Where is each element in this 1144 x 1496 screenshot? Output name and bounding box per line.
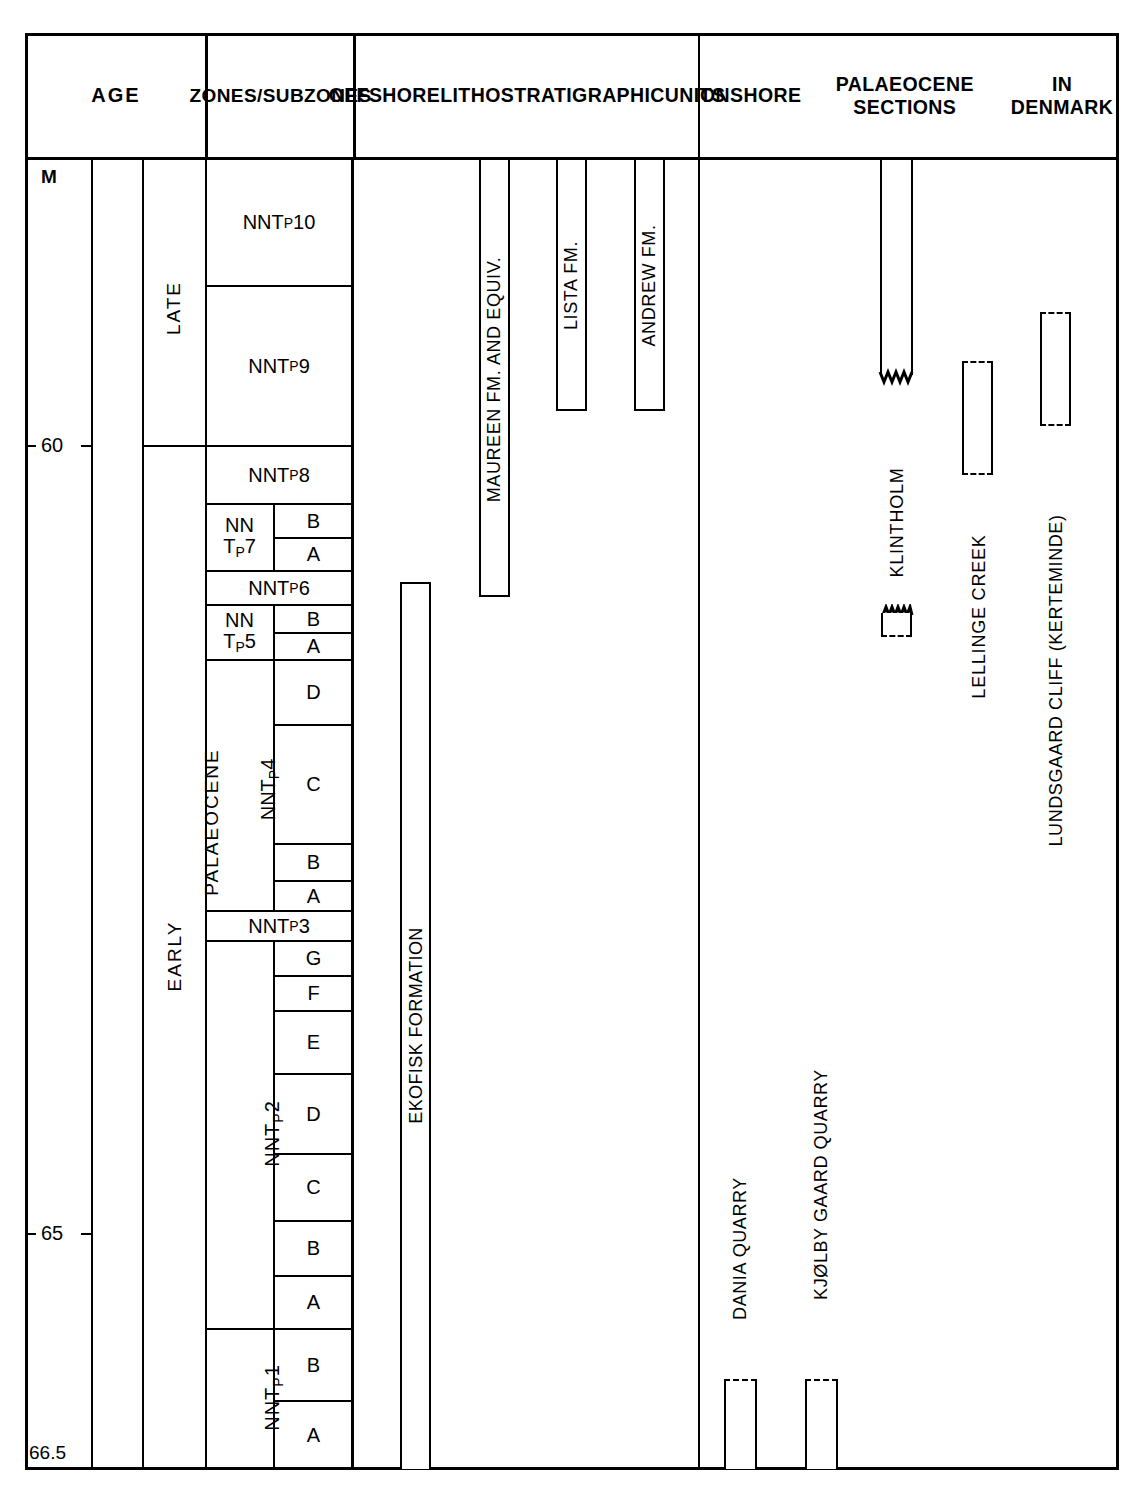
- zone-p9-sub: P: [289, 358, 298, 374]
- subzone-p4-B: B: [275, 845, 352, 880]
- axis-label-60: 60: [41, 434, 63, 457]
- zone-p7-t: T: [223, 535, 235, 557]
- subzone-p5-A: A: [275, 634, 352, 659]
- stratigraphic-chart: AGE ZONES/SUBZONES OFFSHORELITHOSTRATIGR…: [0, 0, 1144, 1496]
- zone-p10-text: NNT: [243, 211, 284, 234]
- zone-p9-num: 9: [299, 355, 310, 378]
- label-ekofisk-formation: EKOFISK FORMATION: [401, 800, 432, 1252]
- subzone-p2-C: C: [275, 1155, 352, 1220]
- header-onshore: ONSHOREPALAEOCENE SECTIONSIN DENMARK: [700, 34, 1116, 157]
- label-maureen-fm: MAUREEN FM. AND EQUIV.: [479, 180, 510, 580]
- zone-label-p5: NN TP5: [206, 606, 273, 659]
- header-age: AGE: [28, 34, 204, 157]
- subzone-p2-A: A: [275, 1277, 352, 1328]
- bar-lellinge-creek: [962, 361, 993, 475]
- zone-p6-sub: P: [289, 580, 298, 596]
- subzone-p2-B: B: [275, 1222, 352, 1275]
- label-lellinge-creek: LELLINGE CREEK: [964, 472, 995, 762]
- zone-p3-num: 3: [299, 915, 310, 938]
- zone-label-p3: NNTP3: [206, 912, 352, 940]
- col-divider-axis: [91, 160, 93, 1468]
- subzone-p7-A: A: [275, 539, 352, 570]
- subzone-p7-B: B: [275, 505, 352, 537]
- zone-p8-sub: P: [289, 467, 298, 483]
- header-offshore: OFFSHORELITHOSTRATIGRAPHICUNITS: [356, 34, 698, 157]
- zone-label-p9: NNTP9: [206, 287, 352, 445]
- zone-label-p8: NNTP8: [206, 447, 352, 503]
- bar-lundsgaard-cliff: [1040, 312, 1071, 426]
- zone-p5-num: 5: [245, 630, 256, 652]
- subzone-p2-G: G: [275, 942, 352, 975]
- zone-p5-line1: NN: [225, 610, 254, 631]
- subzone-p4-C: C: [275, 726, 352, 843]
- label-lista-fm: LISTA FM.: [556, 186, 587, 386]
- zone-p8-text: NNT: [248, 464, 289, 487]
- zone-p3-sub: P: [289, 918, 298, 934]
- axis-tick-60-left: [25, 445, 36, 447]
- epoch-early: EARLY: [144, 445, 206, 1467]
- zone-p10-num: 10: [293, 211, 315, 234]
- bar-kjolby-gaard-quarry: [805, 1379, 838, 1469]
- axis-label-bottom: 66.5: [29, 1442, 66, 1464]
- axis-tick-65-left: [25, 1233, 36, 1235]
- label-klintholm: KLINTHOLM: [881, 406, 914, 639]
- label-dania-quarry: DANIA QUARRY: [724, 1132, 757, 1365]
- subzone-p5-B: B: [275, 606, 352, 632]
- axis-label-65: 65: [41, 1222, 63, 1245]
- subzone-p1-B: B: [275, 1330, 352, 1400]
- subzone-p1-A: A: [275, 1402, 352, 1468]
- zone-p8-num: 8: [299, 464, 310, 487]
- zone-p5-t: T: [223, 630, 235, 652]
- zone-p7-line2: TP7: [223, 536, 256, 560]
- axis-tick-60-right: [81, 445, 92, 447]
- zone-p3-text: NNT: [248, 915, 289, 938]
- subzone-p2-E: E: [275, 1012, 352, 1073]
- zone-p6-text: NNT: [248, 577, 289, 600]
- zone-p7-line1: NN: [225, 515, 254, 536]
- label-kjolby-gaard-quarry: KJØLBY GAARD QUARRY: [805, 1019, 838, 1350]
- subzone-p4-D: D: [275, 661, 352, 724]
- zone-p9-text: NNT: [248, 355, 289, 378]
- axis-tick-65-right: [81, 1233, 92, 1235]
- zone-p7-num: 7: [245, 535, 256, 557]
- label-andrew-fm: ANDREW FM.: [634, 186, 665, 386]
- zone-label-p7: NN TP7: [206, 505, 273, 570]
- subzone-p4-A: A: [275, 882, 352, 910]
- zone-p7-sub: P: [235, 544, 244, 560]
- bar-klintholm: [880, 160, 913, 375]
- zone-p10-sub: P: [284, 215, 293, 231]
- zone-p5-line2: TP5: [223, 631, 256, 655]
- bar-dania-quarry: [724, 1379, 757, 1469]
- subzone-p2-D: D: [275, 1075, 352, 1153]
- axis-unit-label: M: [41, 166, 57, 188]
- zone-p6-num: 6: [299, 577, 310, 600]
- epoch-late: LATE: [143, 166, 205, 451]
- zone-p5-sub: P: [235, 639, 244, 655]
- zone-label-p10: NNTP10: [206, 160, 352, 285]
- frame-left: [25, 33, 28, 1470]
- subzone-p2-F: F: [275, 977, 352, 1010]
- zone-label-p6: NNTP6: [206, 572, 352, 604]
- col-divider-offshore: [698, 160, 700, 1468]
- klintholm-zigzag-base: [878, 368, 915, 386]
- frame-right: [1116, 33, 1119, 1470]
- label-lundsgaard-cliff: LUNDSGAARD CLIFF (KERTEMINDE): [1041, 452, 1072, 910]
